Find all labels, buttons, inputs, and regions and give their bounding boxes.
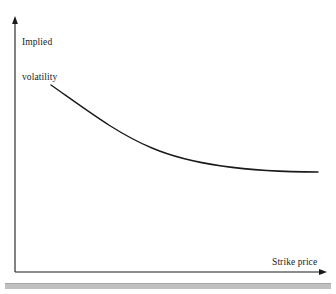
y-axis-label-line-1: Implied xyxy=(22,37,57,49)
x-axis-arrowhead-icon xyxy=(319,269,327,275)
figure-root: Implied volatility Strike price xyxy=(0,0,336,294)
y-axis-arrowhead-icon xyxy=(12,16,18,24)
implied-volatility-curve xyxy=(51,85,318,172)
y-axis-label-line-2: volatility xyxy=(22,72,57,84)
y-axis-label: Implied volatility xyxy=(22,14,57,106)
page-footer-rule xyxy=(5,283,331,289)
axes-group xyxy=(12,16,327,275)
x-axis-label: Strike price xyxy=(272,257,317,269)
series-group xyxy=(51,85,318,172)
